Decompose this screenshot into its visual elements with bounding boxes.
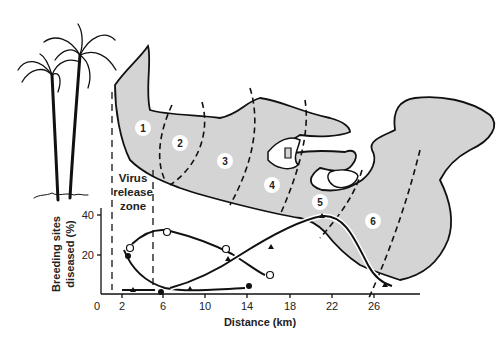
x-tick-10: 10 bbox=[199, 300, 211, 312]
island-map bbox=[115, 46, 494, 280]
filled-circle-marker bbox=[246, 283, 252, 289]
filled-circle-marker bbox=[125, 253, 131, 259]
open-circle-marker bbox=[127, 245, 134, 252]
open-circle-marker bbox=[223, 246, 230, 253]
palm-tree-icon bbox=[18, 24, 116, 200]
zone-5-label: 5 bbox=[317, 197, 323, 208]
x-tick-0: 0 bbox=[94, 300, 100, 312]
zone-4-label: 4 bbox=[269, 180, 275, 191]
y-tick-labels: 40 20 bbox=[82, 209, 94, 261]
open-circle-marker bbox=[164, 229, 171, 236]
zone-6-label: 6 bbox=[370, 216, 376, 227]
triangle-marker bbox=[187, 286, 193, 291]
x-tick-26: 26 bbox=[368, 300, 380, 312]
zone-label-line2: release bbox=[113, 186, 153, 198]
figure-canvas: 1 2 3 4 5 6 Virus release zone 40 20 0 2… bbox=[0, 0, 504, 341]
x-tick-18: 18 bbox=[284, 300, 296, 312]
x-tick-labels: 0 2 6 10 14 18 22 26 bbox=[94, 300, 380, 312]
zone-label-line3: zone bbox=[120, 200, 146, 212]
x-axis-label: Distance (km) bbox=[224, 316, 296, 328]
x-tick-2: 2 bbox=[119, 300, 125, 312]
x-tick-14: 14 bbox=[241, 300, 253, 312]
zone-1-label: 1 bbox=[140, 123, 146, 134]
filled-circle-marker bbox=[158, 289, 164, 295]
y-tick-40: 40 bbox=[82, 209, 94, 221]
x-tick-22: 22 bbox=[326, 300, 338, 312]
zone-2-label: 2 bbox=[177, 138, 183, 149]
zone-label-line1: Virus bbox=[119, 172, 148, 184]
y-axis-label-line1: Breeding sites bbox=[50, 216, 62, 292]
y-tick-20: 20 bbox=[82, 249, 94, 261]
zone-3-label: 3 bbox=[222, 156, 228, 167]
open-circle-marker bbox=[267, 272, 274, 279]
triangle-marker bbox=[268, 244, 274, 249]
x-tick-6: 6 bbox=[160, 300, 166, 312]
y-axis-label-line2: diseased (%) bbox=[64, 220, 76, 288]
